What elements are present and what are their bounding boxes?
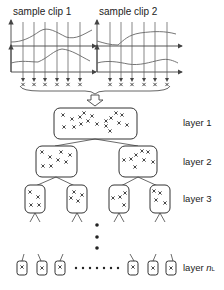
hollow-down-arrow bbox=[87, 95, 103, 106]
layer-nL-sub: L bbox=[212, 266, 215, 272]
layer-1-label: layer 1 bbox=[183, 117, 212, 128]
horizontal-ellipsis bbox=[75, 267, 119, 269]
sample-clip-2-plot bbox=[97, 20, 182, 78]
layer-2-node-1 bbox=[36, 146, 77, 177]
layer-nL-prefix: layer bbox=[183, 262, 206, 273]
layer-nL-label: layer nL bbox=[183, 262, 215, 273]
sampled-points bbox=[21, 78, 169, 86]
grouping-brace bbox=[20, 86, 170, 94]
layer-1-node bbox=[54, 108, 137, 139]
layer-3-label: layer 3 bbox=[183, 193, 212, 204]
layer-3-nodes bbox=[25, 185, 170, 213]
tree-clustering-diagram bbox=[0, 0, 224, 290]
layer-2-node-2 bbox=[119, 146, 157, 177]
layer-2-label: layer 2 bbox=[183, 156, 212, 167]
clip-1-title: sample clip 1 bbox=[13, 6, 71, 17]
clip-2-title: sample clip 2 bbox=[99, 6, 157, 17]
vertical-ellipsis bbox=[95, 223, 99, 250]
sample-clip-1-plot bbox=[11, 20, 96, 78]
